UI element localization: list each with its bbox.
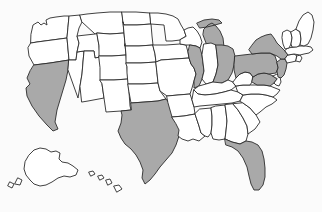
state-CO[interactable]: Colorado — [99, 55, 128, 80]
state-AL[interactable]: Alabama — [211, 105, 227, 140]
state-NM[interactable]: New Mexico — [100, 79, 131, 112]
state-MN[interactable]: Minnesota — [150, 13, 186, 41]
state-HI[interactable]: Hawaii — [89, 171, 122, 192]
state-RI[interactable]: Rhode Island — [296, 55, 302, 62]
state-NJ[interactable]: New Jersey — [277, 59, 287, 78]
state-KS[interactable]: Kansas — [126, 62, 158, 84]
state-AR[interactable]: Arkansas — [167, 94, 195, 117]
state-MT[interactable]: Montana — [80, 12, 124, 34]
state-CA[interactable]: California — [26, 60, 69, 131]
us-choropleth-map-figure: Washington Oregon Idaho California Nevad… — [0, 0, 322, 212]
us-map-svg: Washington Oregon Idaho California Nevad… — [0, 0, 322, 212]
state-VT[interactable]: Vermont — [282, 30, 292, 49]
state-WY[interactable]: Wyoming — [97, 33, 126, 56]
state-ND[interactable]: North Dakota — [122, 12, 151, 25]
state-AK[interactable]: Alaska — [8, 148, 78, 188]
states-layer: Washington Oregon Idaho California Nevad… — [8, 12, 314, 192]
state-FL[interactable]: Florida — [225, 139, 265, 190]
state-NE[interactable]: Nebraska — [125, 44, 156, 63]
state-MO[interactable]: Missouri — [156, 58, 196, 96]
state-SD[interactable]: South Dakota — [123, 22, 153, 46]
